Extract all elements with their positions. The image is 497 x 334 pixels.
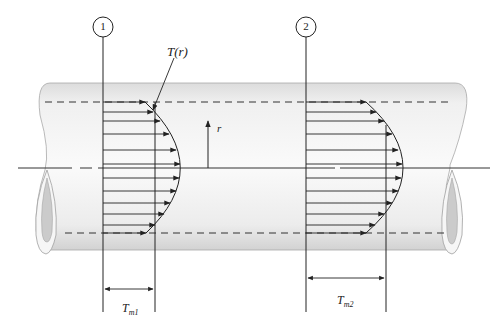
station-2-label: 2 bbox=[296, 20, 316, 32]
tm2-label-sub: m2 bbox=[344, 300, 354, 309]
tm1-label-sub: m1 bbox=[129, 308, 139, 317]
radius-label: r bbox=[217, 122, 221, 134]
pipe-flow-diagram bbox=[0, 0, 497, 334]
tm1-label-main: T bbox=[122, 301, 129, 315]
tm2-label: Tm2 bbox=[337, 293, 353, 309]
tm1-label: Tm1 bbox=[122, 301, 138, 317]
pipe-body bbox=[36, 83, 467, 250]
station-1-label: 1 bbox=[93, 20, 113, 32]
profile-label: T(r) bbox=[167, 44, 188, 60]
tm2-label-main: T bbox=[337, 293, 344, 307]
